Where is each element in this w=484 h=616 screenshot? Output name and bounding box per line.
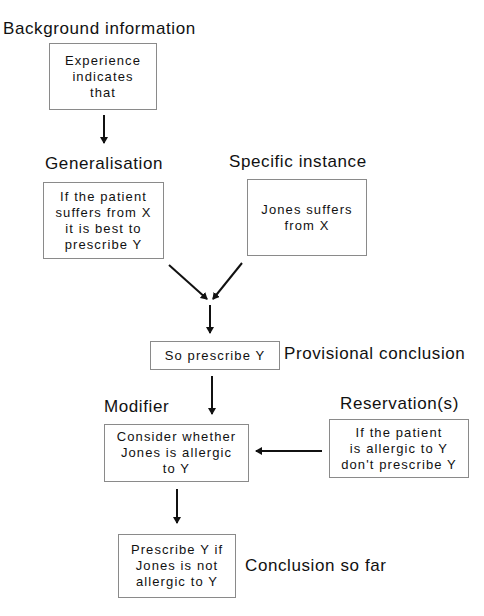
box-reservation: If the patient is allergic to Y don't pr… bbox=[329, 419, 469, 478]
label-conclusion-so-far: Conclusion so far bbox=[245, 556, 387, 576]
box-reservation-text: If the patient is allergic to Y don't pr… bbox=[341, 425, 457, 473]
label-reservations: Reservation(s) bbox=[340, 394, 459, 414]
arrow-generalisation-to-provisional bbox=[169, 265, 207, 299]
box-conclusion-text: Prescribe Y if Jones is not allergic to … bbox=[131, 542, 223, 590]
label-background-information: Background information bbox=[3, 19, 196, 39]
label-provisional-conclusion: Provisional conclusion bbox=[284, 344, 465, 364]
box-modifier-text: Consider whether Jones is allergic to Y bbox=[117, 429, 237, 477]
box-modifier: Consider whether Jones is allergic to Y bbox=[104, 424, 249, 482]
box-specific-instance: Jones suffers from X bbox=[247, 179, 367, 256]
box-background: Experience indicates that bbox=[49, 43, 157, 110]
label-generalisation: Generalisation bbox=[45, 154, 163, 174]
box-provisional-text: So prescribe Y bbox=[165, 348, 265, 364]
box-generalisation: If the patient suffers from X it is best… bbox=[43, 182, 164, 259]
box-conclusion: Prescribe Y if Jones is not allergic to … bbox=[118, 534, 236, 598]
box-background-text: Experience indicates that bbox=[65, 53, 141, 101]
box-provisional: So prescribe Y bbox=[150, 341, 280, 370]
label-modifier: Modifier bbox=[104, 397, 169, 417]
box-specific-instance-text: Jones suffers from X bbox=[261, 202, 352, 234]
label-specific-instance: Specific instance bbox=[229, 152, 367, 172]
box-generalisation-text: If the patient suffers from X it is best… bbox=[55, 189, 151, 253]
arrow-specific-to-provisional bbox=[213, 263, 242, 299]
